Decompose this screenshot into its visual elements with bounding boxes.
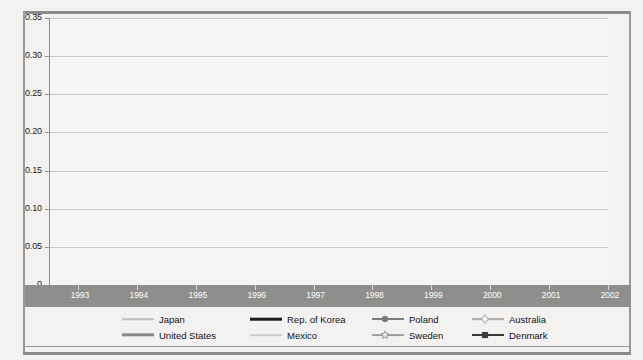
plot-background	[50, 18, 608, 285]
x-axis-tick	[196, 285, 197, 290]
legend-separator	[23, 346, 631, 347]
legend-line	[250, 334, 282, 336]
square-marker	[482, 332, 487, 337]
x-axis-tick	[490, 285, 491, 290]
x-axis-tick-label: 1995	[171, 290, 225, 300]
x-axis-tick	[78, 285, 79, 290]
legend-label: United States	[159, 330, 216, 341]
legend-swatch-korea	[250, 313, 282, 325]
chart-legend: JapanRep. of KoreaPolandAustraliaUnited …	[122, 312, 542, 344]
y-axis-tick-label: 0.15	[2, 165, 42, 175]
legend-line	[122, 318, 154, 320]
x-axis-tick	[608, 285, 609, 290]
y-axis-line	[49, 18, 50, 285]
legend-swatch-poland	[372, 313, 404, 325]
x-axis-tick-label: 1998	[347, 290, 401, 300]
y-axis-tick-label: 0.25	[2, 88, 42, 98]
legend-square-icon	[479, 329, 491, 341]
legend-swatch-denmark	[472, 329, 504, 341]
legend-item-korea[interactable]: Rep. of Korea	[250, 312, 346, 326]
gridline	[50, 56, 608, 57]
gridline	[50, 247, 608, 248]
legend-diamond-icon	[479, 313, 491, 325]
legend-label: Denmark	[509, 330, 548, 341]
gridline	[50, 171, 608, 172]
x-axis-tick-label: 1996	[230, 290, 284, 300]
frame-top-border	[23, 11, 631, 14]
legend-swatch-united-states	[122, 329, 154, 341]
x-axis-tick	[255, 285, 256, 290]
y-axis-tick-label: 0.30	[2, 50, 42, 60]
legend-label: Australia	[509, 314, 546, 325]
x-axis-tick-label: 1994	[112, 290, 166, 300]
legend-item-japan[interactable]: Japan	[122, 312, 185, 326]
legend-item-mexico[interactable]: Mexico	[250, 328, 317, 342]
legend-star-icon	[379, 329, 391, 341]
frame-bottom-border	[23, 352, 631, 355]
legend-line	[122, 333, 154, 336]
x-axis-tick	[137, 285, 138, 290]
legend-line	[250, 318, 282, 321]
x-axis-tick-label: 2002	[583, 290, 637, 300]
x-axis-tick	[549, 285, 550, 290]
x-axis-tick-label: 1999	[406, 290, 460, 300]
y-axis-tick-label: 0.10	[2, 203, 42, 213]
x-axis-tick-label: 1997	[289, 290, 343, 300]
y-axis-tick-label: 0.20	[2, 126, 42, 136]
x-axis-band: 1993199419951996199719981999200020012002	[25, 285, 631, 307]
legend-circle-icon	[379, 313, 391, 325]
x-axis-tick-label: 2000	[465, 290, 519, 300]
star-marker	[381, 331, 389, 339]
x-axis-tick	[372, 285, 373, 290]
legend-swatch-mexico	[250, 329, 282, 341]
gridline	[50, 209, 608, 210]
x-axis-tick-label: 2001	[524, 290, 578, 300]
legend-label: Mexico	[287, 330, 317, 341]
x-axis-tick	[314, 285, 315, 290]
legend-swatch-japan	[122, 313, 154, 325]
plot-area	[50, 18, 608, 285]
circle-marker	[382, 316, 388, 322]
legend-item-denmark[interactable]: Denmark	[472, 328, 548, 342]
gridline	[50, 94, 608, 95]
y-axis-tick-label: 0.35	[2, 12, 42, 22]
legend-item-australia[interactable]: Australia	[472, 312, 546, 326]
legend-item-sweden[interactable]: Sweden	[372, 328, 443, 342]
legend-swatch-sweden	[372, 329, 404, 341]
y-axis-tick-label: 0.05	[2, 241, 42, 251]
legend-label: Rep. of Korea	[287, 314, 346, 325]
legend-item-poland[interactable]: Poland	[372, 312, 439, 326]
diamond-marker	[482, 315, 489, 323]
legend-swatch-australia	[472, 313, 504, 325]
x-axis-tick-label: 1993	[53, 290, 107, 300]
legend-label: Japan	[159, 314, 185, 325]
legend-item-united-states[interactable]: United States	[122, 328, 216, 342]
legend-label: Poland	[409, 314, 439, 325]
gridline	[50, 18, 608, 19]
gridline	[50, 132, 608, 133]
chart-figure: 00.050.100.150.200.250.300.35 1993199419…	[0, 0, 643, 360]
legend-label: Sweden	[409, 330, 443, 341]
x-axis-tick	[431, 285, 432, 290]
